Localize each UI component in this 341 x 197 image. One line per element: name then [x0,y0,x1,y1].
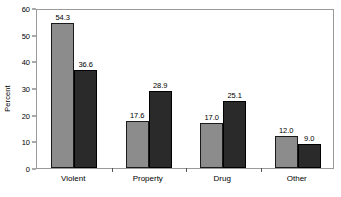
bar [51,23,74,168]
y-axis-tick-label: 40 [22,58,30,67]
bar-value-label: 12.0 [279,126,294,135]
bar-value-label: 28.9 [153,81,168,90]
x-axis-category-label: Violent [61,174,85,183]
bar-group-bars: 12.09.0 [261,10,336,168]
bar-group-bars: 54.336.6 [37,10,112,168]
bar-column: 28.9 [149,10,172,168]
y-axis-tick-labels: 0102030405060 [12,9,32,169]
x-axis-tick-mark [112,168,113,172]
bar-column: 25.1 [223,10,246,168]
bar-value-label: 54.3 [55,13,70,22]
x-axis-category-labels: ViolentPropertyDrugOther [36,174,334,190]
y-axis-tick-label: 50 [22,31,30,40]
bar-column: 9.0 [298,10,321,168]
bar [74,70,97,168]
bar-group: 12.09.0 [261,10,336,168]
bar-column: 12.0 [275,10,298,168]
y-axis-tick-label: 0 [26,165,30,174]
x-axis-tick-mark [261,168,262,172]
plot-inner: 54.336.617.628.917.025.112.09.0 [37,10,333,168]
bar-group-bars: 17.025.1 [186,10,261,168]
y-axis-tick-label: 10 [22,138,30,147]
bar-group: 17.025.1 [186,10,261,168]
x-axis-tick-mark [186,168,187,172]
bar-value-label: 36.6 [78,60,93,69]
bar-group-bars: 17.628.9 [112,10,187,168]
y-axis-title-text: Percent [3,85,12,112]
y-axis-tick-label: 30 [22,85,30,94]
bar-value-label: 25.1 [227,91,242,100]
bar-value-label: 17.6 [130,111,145,120]
bar [223,101,246,168]
x-axis-category-label: Property [133,174,163,183]
bar-column: 17.0 [200,10,223,168]
bar-value-label: 9.0 [304,134,314,143]
bar-chart: Percent 0102030405060 54.336.617.628.917… [0,0,341,197]
bar-group: 54.336.6 [37,10,112,168]
x-axis-category-label: Other [287,174,307,183]
bar [275,136,298,168]
bar-value-label: 17.0 [204,113,219,122]
bar [149,91,172,168]
bar-column: 54.3 [51,10,74,168]
bar-column: 36.6 [74,10,97,168]
x-axis-category-label: Drug [214,174,231,183]
plot-area: 54.336.617.628.917.025.112.09.0 [36,9,334,169]
bar-group: 17.628.9 [112,10,187,168]
bar [298,144,321,168]
y-axis-tick-label: 60 [22,5,30,14]
bar-column: 17.6 [126,10,149,168]
bar [126,121,149,168]
y-axis-tick-label: 20 [22,111,30,120]
bar [200,123,223,168]
